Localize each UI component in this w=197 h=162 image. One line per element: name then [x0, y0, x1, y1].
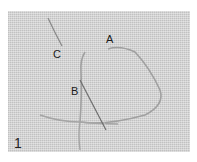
- label-a: A: [106, 34, 113, 45]
- thread-and-needle-illustration: [0, 0, 197, 162]
- label-b: B: [71, 86, 78, 97]
- label-c: C: [53, 49, 61, 60]
- figure-number: 1: [14, 136, 22, 150]
